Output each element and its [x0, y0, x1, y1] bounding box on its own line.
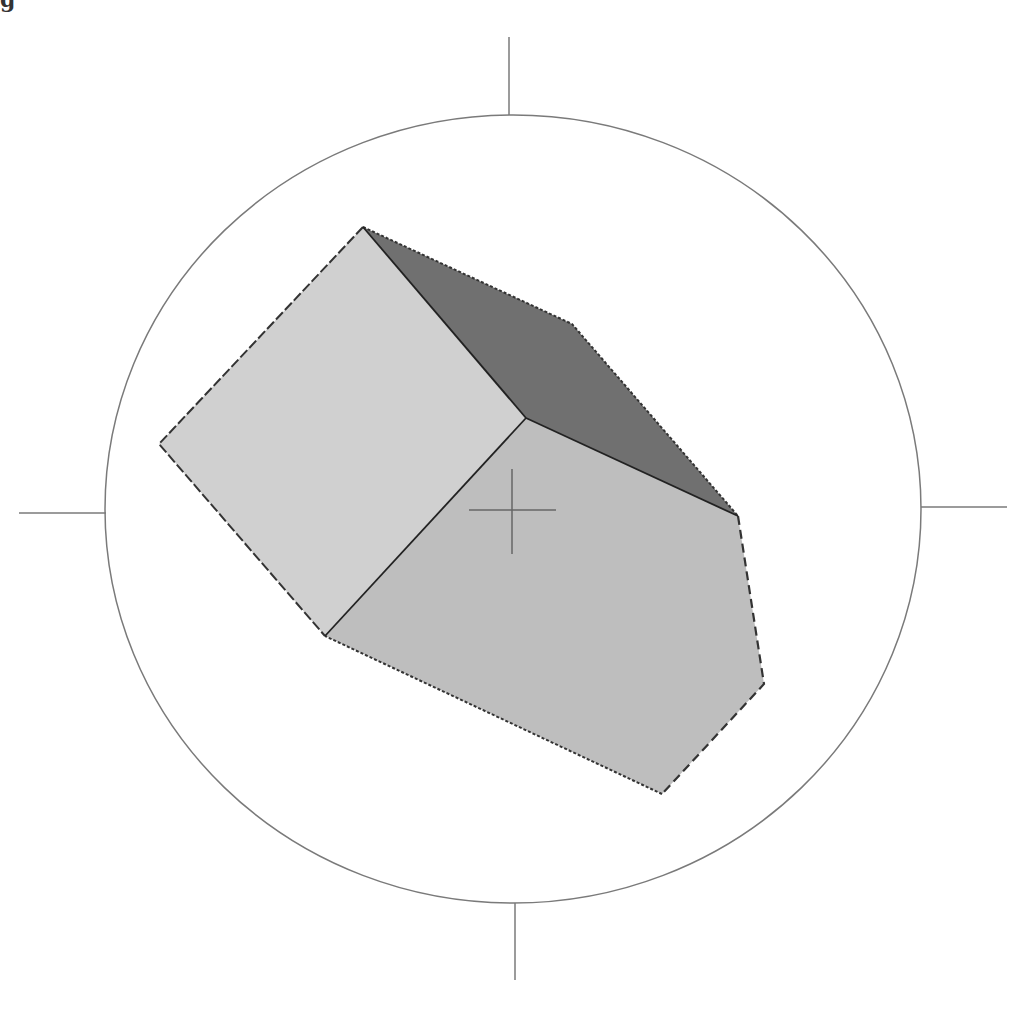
block — [159, 227, 764, 794]
diagram-canvas — [0, 0, 1024, 1012]
